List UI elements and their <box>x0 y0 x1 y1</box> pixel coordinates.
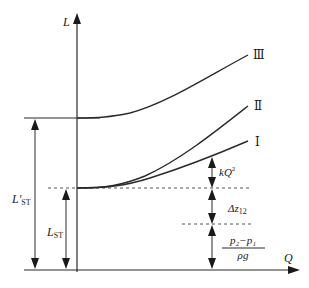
y-axis <box>73 13 81 272</box>
arrow-up-icon <box>62 189 70 200</box>
arrow-down-icon <box>62 258 70 269</box>
curve-I <box>77 141 248 188</box>
kq2-label: kQ2 <box>219 165 236 178</box>
arrow-up-icon <box>208 189 216 200</box>
kq2-dimension <box>208 157 216 188</box>
curve-I-label: Ⅰ <box>255 135 260 149</box>
arrow-up-icon <box>208 157 216 168</box>
arrow-up-icon <box>208 225 216 236</box>
pressure-numerator: p₂−p₁ <box>229 234 256 246</box>
curve-II-label: Ⅱ <box>254 99 262 113</box>
l-st-prime-dimension <box>31 119 39 269</box>
system-curve-diagram: L Q Ⅲ Ⅱ Ⅰ L′ST LST kQ2 Δz12 <box>0 0 309 288</box>
y-axis-label: L <box>62 15 70 29</box>
delta-z-dimension <box>208 189 216 224</box>
arrow-down-icon <box>208 213 216 224</box>
arrow-down-icon <box>208 177 216 188</box>
pressure-dimension <box>208 225 216 269</box>
l-st-dimension <box>62 189 70 269</box>
arrow-down-icon <box>31 258 39 269</box>
arrow-down-icon <box>208 258 216 269</box>
arrow-up-icon <box>31 119 39 130</box>
x-axis-arrow-icon <box>288 266 300 274</box>
pressure-denominator: ρg <box>237 249 249 261</box>
y-axis-arrow-icon <box>73 13 81 24</box>
delta-z-label: Δz12 <box>227 202 247 216</box>
pressure-term-label: p₂−p₁ ρg <box>222 234 265 261</box>
l-st-label: LST <box>46 225 63 240</box>
curve-III <box>77 55 248 118</box>
l-st-prime-label: L′ST <box>11 192 31 207</box>
x-axis-label: Q <box>284 251 293 265</box>
curve-III-label: Ⅲ <box>253 48 265 62</box>
